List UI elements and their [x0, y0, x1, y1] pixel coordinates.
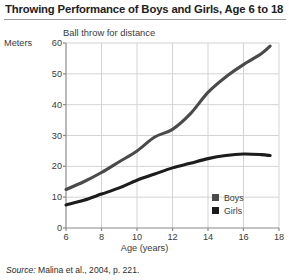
plot-area: 0102030405060681012141618: [66, 43, 279, 228]
title-divider: [4, 19, 286, 20]
source-text: Malina et al., 2004, p. 221.: [38, 265, 139, 275]
source-prefix: Source:: [6, 265, 36, 275]
x-axis-tick-16: 16: [238, 232, 248, 242]
y-axis-tick-10: 10: [52, 192, 62, 202]
y-axis-label: Meters: [4, 38, 32, 48]
y-axis-tick-60: 60: [52, 38, 62, 48]
y-axis-tick-50: 50: [52, 69, 62, 79]
legend-label-boys: Boys: [224, 193, 244, 203]
x-axis-tick-6: 6: [63, 232, 68, 242]
legend-item-boys: Boys: [212, 191, 244, 204]
y-axis-tick-20: 20: [52, 161, 62, 171]
x-axis-tick-10: 10: [132, 232, 142, 242]
source-note: Source: Malina et al., 2004, p. 221.: [6, 265, 139, 275]
chart-canvas: [66, 43, 279, 228]
y-axis-tick-30: 30: [52, 131, 62, 141]
x-axis-tick-14: 14: [203, 232, 213, 242]
chart-legend: Boys Girls: [212, 191, 244, 217]
chart-figure: Throwing Performance of Boys and Girls, …: [0, 0, 289, 280]
y-axis-tick-40: 40: [52, 100, 62, 110]
legend-label-girls: Girls: [224, 206, 242, 216]
x-axis-tick-18: 18: [274, 232, 284, 242]
y-axis-tick-0: 0: [57, 223, 62, 233]
legend-item-girls: Girls: [212, 204, 244, 217]
x-axis-label: Age (years): [0, 243, 289, 253]
x-axis-tick-8: 8: [99, 232, 104, 242]
chart-subtitle: Ball throw for distance: [63, 27, 155, 38]
legend-swatch-boys: [212, 194, 219, 201]
legend-swatch-girls: [212, 207, 219, 214]
chart-title: Throwing Performance of Boys and Girls, …: [5, 3, 287, 16]
x-axis-tick-12: 12: [167, 232, 177, 242]
